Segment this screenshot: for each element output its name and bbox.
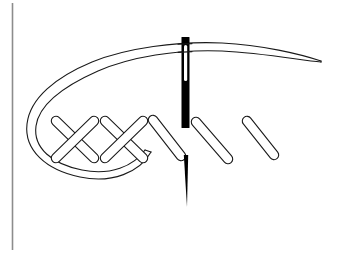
thread-front-strand-upper	[178, 44, 192, 45]
needle-eye	[184, 45, 187, 81]
illustration-canvas: Cross-stitch with needle and thread Line…	[0, 0, 346, 255]
cross-stitch-needle-drawing	[0, 0, 346, 255]
paper-background	[0, 0, 346, 255]
